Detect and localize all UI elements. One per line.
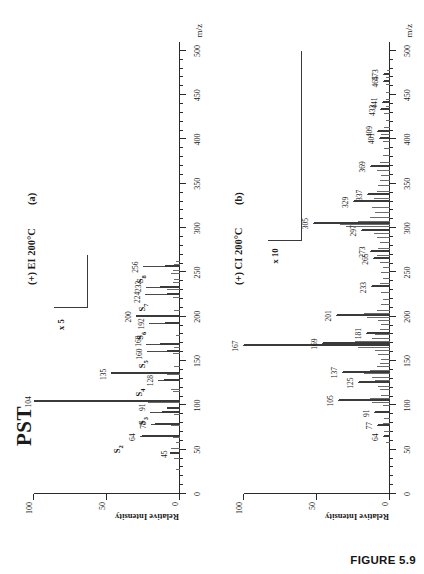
x-tick-minor	[180, 156, 183, 157]
spectrum-peak	[167, 374, 180, 375]
x-tick-minor	[390, 103, 393, 104]
x-tick	[180, 183, 186, 184]
spectrum-peak-labeled	[368, 193, 390, 195]
x-tick-minor	[390, 174, 393, 175]
x-tick-minor	[390, 130, 393, 131]
x-tick-minor	[390, 254, 393, 255]
sulfur-series-label: S5	[137, 360, 149, 368]
spectrum-peak	[381, 134, 390, 135]
x-tick-minor	[180, 396, 183, 397]
spectrum-peak	[381, 175, 390, 176]
y-tick	[179, 494, 180, 500]
spectrum-peak-labeled	[381, 108, 390, 110]
spectrum-peak	[384, 148, 390, 149]
spectrum-peak	[380, 242, 390, 243]
x-tick-minor	[390, 325, 393, 326]
spectrum-peak-labeled	[362, 229, 390, 231]
x-tick-label: 200	[403, 311, 412, 323]
x-tick-minor	[180, 68, 183, 69]
x-tick-minor	[180, 333, 183, 334]
peak-leader-line	[145, 294, 167, 295]
peak-label: 441	[370, 98, 379, 109]
spectrum-peak	[386, 442, 390, 443]
x-tick-minor	[390, 458, 393, 459]
x-tick-label: 450	[403, 89, 412, 101]
spectrum-peak-labeled	[384, 80, 390, 82]
x-tick-minor	[180, 130, 183, 131]
peak-label: 45	[160, 450, 169, 458]
x-tick-minor	[390, 484, 393, 485]
peak-label: 104	[24, 396, 33, 407]
spectrum-peak-labeled	[170, 452, 180, 454]
x-tick-minor	[180, 280, 183, 281]
sulfur-series-label: S4	[134, 389, 146, 397]
x-tick-minor	[390, 475, 393, 476]
x-tick-minor	[390, 121, 393, 122]
spectrum-peak	[386, 92, 390, 93]
spectrum-peak	[377, 366, 390, 367]
x-tick	[180, 227, 186, 228]
peak-label: 297	[349, 225, 358, 236]
spectrum-peak	[377, 255, 390, 256]
spectrum-peak	[377, 170, 390, 171]
spectrum-peak	[374, 233, 390, 234]
peak-label: 473	[371, 69, 380, 80]
y-axis-line-a	[34, 493, 180, 494]
spectrum-peak-labeled	[371, 250, 390, 252]
y-tick	[106, 494, 107, 500]
x-tick-minor	[390, 263, 393, 264]
x-tick-minor	[390, 466, 393, 467]
spectrum-peak-labeled	[384, 435, 390, 437]
x-tick-minor	[390, 59, 393, 60]
x-tick	[390, 50, 396, 51]
spectrum-peak-labeled	[111, 372, 180, 374]
x-tick-minor	[180, 254, 183, 255]
x-tick-minor	[180, 165, 183, 166]
x-tick-label: 0	[193, 492, 202, 496]
spectrum-peak	[377, 191, 390, 192]
x-tick-minor	[180, 342, 183, 343]
spectrum-peak	[383, 299, 390, 300]
peak-leader-line	[367, 194, 368, 195]
spectrum-peak	[384, 113, 390, 114]
peak-label: 201	[324, 310, 333, 321]
x-tick-minor	[390, 387, 393, 388]
spectrum-peak	[171, 425, 180, 426]
x-tick-minor	[390, 333, 393, 334]
spectrum-peak	[384, 418, 390, 419]
x-tick-minor	[390, 85, 393, 86]
y-axis-title-a: Relative Intensity	[92, 512, 202, 522]
spectrum-peak	[174, 310, 180, 311]
spectrum-peak	[173, 391, 180, 392]
x-tick-label: 100	[403, 399, 412, 411]
figure-canvas: PST (+) EI 200°C (a) (+) CI 200°C (b) Re…	[0, 0, 424, 574]
spectrum-panel-a: Relative Intensity m/z 05010015020025030…	[14, 40, 194, 532]
spectrum-peak	[378, 248, 390, 249]
spectrum-peak	[380, 283, 390, 284]
spectrum-peak	[381, 292, 390, 293]
x-tick-label: 150	[403, 355, 412, 367]
magnification-bracket-bar	[301, 51, 302, 242]
spectrum-peak	[380, 262, 390, 263]
x-tick-label: 300	[193, 222, 202, 234]
peak-label: 105	[326, 395, 335, 406]
spectrum-peak	[167, 289, 180, 290]
spectrum-peak	[364, 373, 390, 374]
spectrum-peak	[381, 395, 390, 396]
spectrum-peak	[378, 320, 390, 321]
sulfur-series-label: S3	[137, 417, 149, 425]
spectrum-peak	[174, 366, 180, 367]
x-tick-minor	[390, 351, 393, 352]
peak-label: 305	[301, 218, 310, 229]
spectrum-peak	[383, 405, 390, 406]
peak-label: 169	[310, 339, 319, 350]
magnification-bracket	[268, 51, 302, 242]
peak-label: 77	[365, 422, 374, 430]
spectrum-peak-labeled	[136, 315, 180, 317]
spectrum-peak-labeled	[160, 286, 180, 288]
spectrum-peak	[380, 363, 390, 364]
peak-leader-line	[370, 251, 371, 252]
peak-leader-line	[353, 201, 354, 202]
spectrum-peak-labeled	[160, 343, 180, 345]
peak-label: 181	[354, 328, 363, 339]
